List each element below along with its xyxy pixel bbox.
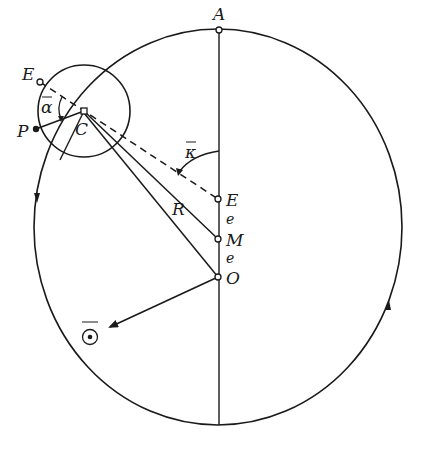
- line-C-to-O: [84, 113, 218, 277]
- label-kappa-bar: κ: [184, 142, 196, 162]
- label-O: O: [226, 268, 240, 288]
- label-A: A: [211, 4, 225, 24]
- label-M: M: [225, 230, 244, 250]
- point-M: [215, 236, 221, 242]
- alpha-angle-arc: [59, 97, 62, 119]
- point-O: [215, 274, 221, 280]
- arrow-O-to-sun: [110, 277, 218, 327]
- label-E-epicycle: E: [21, 64, 35, 84]
- label-C: C: [75, 119, 88, 139]
- label-P: P: [16, 121, 29, 141]
- point-C: [81, 108, 87, 114]
- deferent-radius-line-R: [86, 113, 218, 239]
- deferent-circle: [34, 29, 402, 425]
- equant-diagram: A E P C α κ R E e M e O: [0, 0, 424, 449]
- point-E-equant: [215, 196, 221, 202]
- label-e-upper: e: [226, 211, 234, 227]
- label-kappa: κ: [184, 142, 196, 162]
- label-e-lower: e: [226, 250, 234, 266]
- point-A: [216, 27, 222, 33]
- label-E-equant: E: [225, 190, 239, 210]
- label-R: R: [171, 199, 185, 219]
- label-alpha-bar: α: [41, 97, 53, 117]
- point-P-planet: [33, 126, 39, 132]
- point-E-epicycle: [37, 79, 43, 85]
- label-alpha: α: [41, 97, 53, 117]
- sun-icon: [82, 322, 98, 345]
